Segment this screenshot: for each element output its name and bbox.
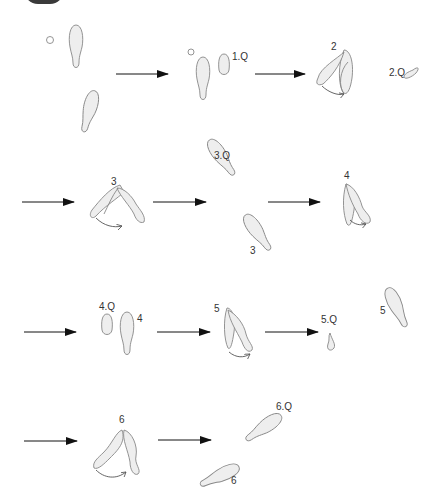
footprint-diagram — [0, 0, 429, 504]
label-step-2: 2 — [331, 42, 337, 52]
label-pivot-4: 4 — [344, 171, 350, 181]
pivot-2 — [317, 50, 353, 95]
label-pivot-3: 3 — [111, 177, 117, 187]
label-pivot-5: 5 — [214, 304, 220, 314]
foot-1Q-ball — [219, 54, 230, 75]
pivot-3 — [90, 185, 144, 227]
start-marker-circle — [47, 37, 54, 44]
foot-5 — [382, 285, 412, 329]
transition-arrows — [22, 74, 320, 441]
label-step-5Q: 5.Q — [321, 315, 337, 325]
foot-5Q-ball — [328, 333, 335, 350]
foot-4Q-ball — [102, 314, 113, 335]
label-step-4: 4 — [137, 314, 143, 324]
label-step-4Q: 4.Q — [99, 302, 115, 312]
pivot-4 — [343, 184, 370, 225]
label-step-6: 6 — [231, 476, 237, 486]
label-step-5: 5 — [380, 306, 386, 316]
foot-4 — [120, 312, 134, 355]
label-step-3: 3 — [250, 246, 256, 256]
foot-2Q-ball — [404, 68, 418, 78]
label-pivot-6: 6 — [119, 415, 125, 425]
foot-start-right — [69, 25, 83, 68]
label-step-6Q: 6.Q — [276, 402, 292, 412]
pivot-6 — [94, 430, 140, 477]
label-step-1Q: 1.Q — [232, 52, 248, 62]
foot-6Q — [242, 410, 285, 445]
foot-3 — [240, 211, 275, 254]
pivot-5 — [224, 308, 252, 357]
label-step-3Q: 3.Q — [214, 151, 230, 161]
label-step-2Q: 2.Q — [389, 68, 405, 78]
foot-start-left — [77, 89, 101, 134]
foot-1-standing — [196, 57, 210, 100]
